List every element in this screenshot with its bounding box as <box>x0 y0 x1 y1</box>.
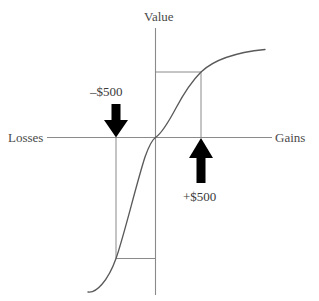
value-function-diagram <box>0 0 319 301</box>
figure-canvas: Value Losses Gains –$500 +$500 <box>0 0 319 301</box>
axis-label-gains: Gains <box>275 131 305 144</box>
axis-label-losses: Losses <box>8 131 43 144</box>
annotation-gain-amount: +$500 <box>183 190 216 203</box>
annotation-loss-amount: –$500 <box>90 85 123 98</box>
axis-label-value: Value <box>144 10 174 23</box>
loss-down-arrow-icon <box>104 104 128 138</box>
gain-up-arrow-icon <box>189 138 213 183</box>
